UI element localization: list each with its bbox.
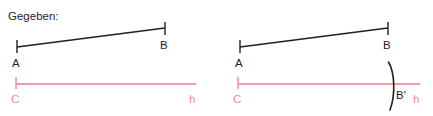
label-point-b: B [383, 39, 391, 51]
gegeben-panel: A B C h [11, 22, 196, 105]
label-point-a: A [12, 57, 20, 69]
figure-caption: Gegeben: [8, 10, 59, 22]
konstruktion-panel: A B C h B' [233, 22, 420, 110]
segment-ab [17, 28, 165, 47]
geometry-figure: Gegeben: A B C h A B [0, 0, 433, 116]
label-point-b-prime: B' [396, 89, 406, 101]
label-point-b: B [160, 39, 168, 51]
label-point-a: A [235, 57, 243, 69]
label-point-c: C [11, 93, 19, 105]
segment-ab [240, 28, 388, 47]
label-line-h: h [413, 93, 419, 105]
label-point-c: C [233, 93, 241, 105]
label-line-h: h [189, 93, 195, 105]
figure-canvas: Gegeben: A B C h A B [0, 0, 433, 116]
compass-arc [389, 62, 394, 110]
